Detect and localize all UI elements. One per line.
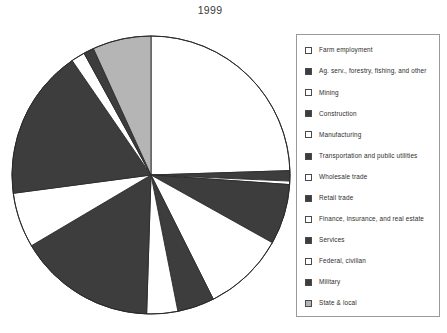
legend-label: Transportation and public utilities [319, 153, 417, 159]
legend-item: Services [297, 230, 439, 251]
legend-swatch-dark [305, 110, 312, 117]
legend-label: Manufacturing [319, 132, 361, 138]
legend-swatch-dark [305, 237, 312, 244]
legend-swatch-dark [305, 68, 312, 75]
legend-swatch-light_gray [305, 300, 312, 307]
legend-label: Retail trade [319, 195, 353, 201]
legend-swatch-dark [305, 153, 312, 160]
legend-label: State & local [319, 300, 357, 306]
legend-item: Manufacturing [297, 124, 439, 145]
legend-item: Transportation and public utilities [297, 145, 439, 166]
legend-item: Military [297, 272, 439, 293]
legend-label: Military [319, 279, 340, 285]
legend-item: Construction [297, 103, 439, 124]
legend-swatch-dark [305, 195, 312, 202]
legend-swatch-white [305, 216, 312, 223]
legend-label: Services [319, 237, 345, 243]
legend-label: Ag. serv., forestry, fishing, and other [319, 68, 427, 74]
legend-item: Federal, civilian [297, 251, 439, 272]
legend-label: Construction [319, 111, 357, 117]
legend-label: Mining [319, 90, 339, 96]
legend-item: Wholesale trade [297, 167, 439, 188]
legend-label: Federal, civilian [319, 258, 366, 264]
legend: Farm employmentAg. serv., forestry, fish… [296, 34, 440, 317]
legend-label: Farm employment [319, 47, 373, 53]
legend-item: Farm employment [297, 40, 439, 61]
legend-item: Retail trade [297, 188, 439, 209]
legend-swatch-white [305, 131, 312, 138]
legend-item: State & local [297, 293, 439, 314]
legend-label: Finance, insurance, and real estate [319, 216, 424, 222]
legend-swatch-white [305, 174, 312, 181]
legend-item: Mining [297, 82, 439, 103]
legend-label: Wholesale trade [319, 174, 367, 180]
legend-swatch-white [305, 47, 312, 54]
pie-slice [151, 36, 290, 175]
chart-title: 1999 [0, 4, 420, 16]
pie-chart [10, 33, 292, 318]
legend-item: Ag. serv., forestry, fishing, and other [297, 61, 439, 82]
legend-swatch-white [305, 258, 312, 265]
legend-swatch-white [305, 89, 312, 96]
legend-swatch-dark [305, 279, 312, 286]
pie-svg [10, 33, 292, 318]
legend-item: Finance, insurance, and real estate [297, 209, 439, 230]
